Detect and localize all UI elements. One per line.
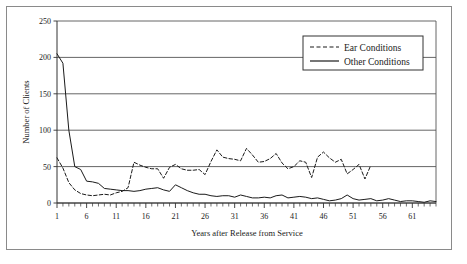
- x-tick-label-36: 36: [260, 212, 268, 221]
- x-tick-label-6: 6: [85, 212, 89, 221]
- y-tick-label-250: 250: [39, 17, 51, 26]
- legend-label-1: Other Conditions: [344, 57, 410, 67]
- x-tick-label-61: 61: [408, 212, 416, 221]
- y-tick-label-200: 200: [39, 53, 51, 62]
- y-axis-title: Number of Clients: [21, 80, 31, 143]
- y-axis-tick-label-group: 050100150200250: [39, 17, 57, 208]
- x-tick-label-11: 11: [112, 212, 120, 221]
- x-tick-label-46: 46: [319, 212, 327, 221]
- series-line-other-conditions: [57, 54, 436, 203]
- x-tick-label-1: 1: [55, 212, 59, 221]
- y-tick-label-150: 150: [39, 90, 51, 99]
- line-chart: 050100150200250 161116212631364146515661…: [0, 0, 467, 264]
- y-tick-label-0: 0: [47, 199, 51, 208]
- data-series-group: [57, 54, 436, 203]
- x-tick-label-26: 26: [201, 212, 209, 221]
- x-tick-label-21: 21: [171, 212, 179, 221]
- x-tick-label-16: 16: [142, 212, 150, 221]
- x-axis-tick-group: [57, 203, 436, 208]
- x-tick-label-31: 31: [231, 212, 239, 221]
- legend-label-0: Ear Conditions: [344, 43, 402, 53]
- y-tick-label-50: 50: [43, 163, 51, 172]
- x-tick-label-56: 56: [379, 212, 387, 221]
- chart-legend: Ear ConditionsOther Conditions: [303, 36, 423, 70]
- x-tick-label-51: 51: [349, 212, 357, 221]
- y-tick-label-100: 100: [39, 126, 51, 135]
- x-tick-label-41: 41: [290, 212, 298, 221]
- figure-container: 050100150200250 161116212631364146515661…: [0, 0, 467, 264]
- x-axis-title: Years after Release from Service: [191, 228, 303, 238]
- x-axis-tick-label-group: 161116212631364146515661: [55, 212, 416, 221]
